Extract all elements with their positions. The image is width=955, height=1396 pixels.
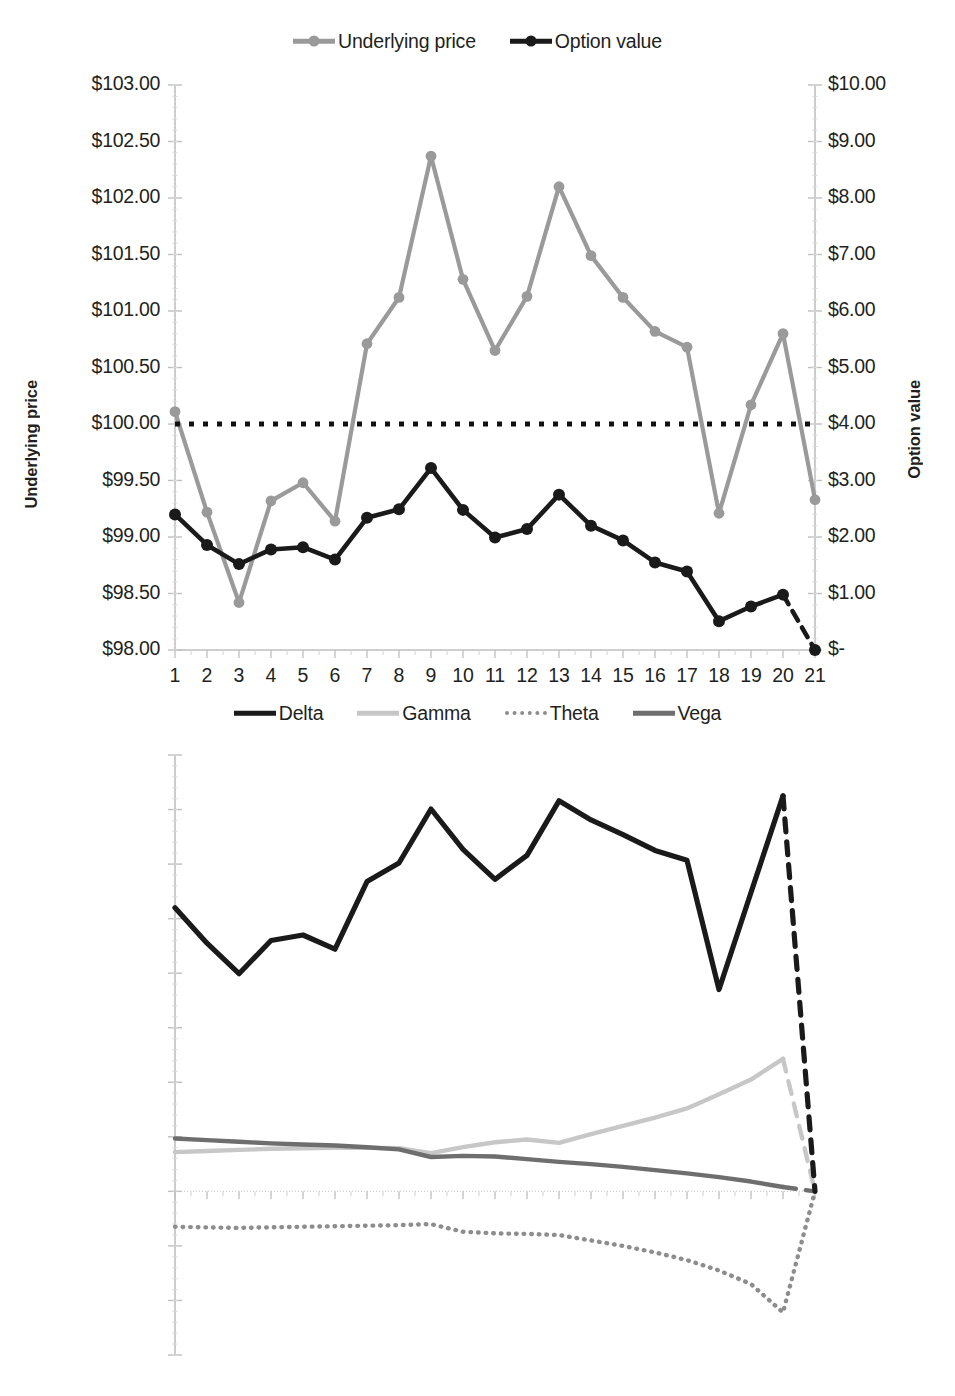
top-chart-plot	[0, 0, 955, 700]
series-delta	[175, 796, 815, 1191]
bottom-greeks-chart-panel: DeltaGammaThetaVega Greek risk measureme…	[0, 690, 955, 1396]
series-vega	[175, 1138, 815, 1191]
figure-root: Underlying priceOption value Underlying …	[0, 0, 955, 1396]
series-option-value	[169, 462, 821, 656]
series-theta	[175, 1191, 815, 1312]
bottom-chart-plot	[0, 690, 955, 1396]
top-option-chart-panel: Underlying priceOption value Underlying …	[0, 0, 955, 700]
series-gamma	[175, 1059, 815, 1192]
